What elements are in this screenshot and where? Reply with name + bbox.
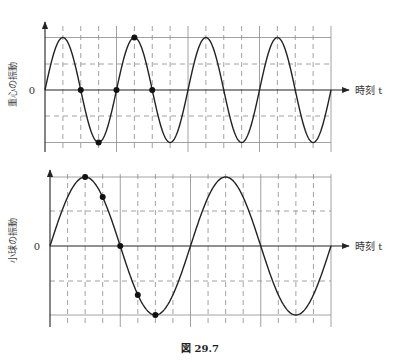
marked-point <box>96 140 102 146</box>
zero-label: 0 <box>34 241 40 252</box>
top-chart-center-of-mass-oscillation: 0 時刻 t 重心の振動 <box>7 22 382 152</box>
marked-point <box>152 312 158 318</box>
marked-point <box>135 292 141 298</box>
marked-point <box>117 243 123 249</box>
x-axis-label-time: 時刻 t <box>355 84 382 96</box>
figure-caption: 図 29.7 <box>181 343 219 354</box>
marked-point <box>149 87 155 93</box>
bottom-chart-ball-oscillation: 0 時刻 t 小球の振動 <box>7 170 382 327</box>
marked-point <box>114 87 120 93</box>
marked-point <box>82 174 88 180</box>
y-axis-label: 小球の振動 <box>7 218 18 263</box>
zero-label: 0 <box>29 85 35 96</box>
marked-point <box>78 87 84 93</box>
x-axis-label-time: 時刻 t <box>355 240 382 252</box>
figure-29-7: 0 時刻 t 重心の振動 0 時刻 t 小球の振動 図 29.7 <box>0 0 400 363</box>
grid <box>50 174 331 327</box>
marked-point <box>131 35 137 41</box>
y-axis-label: 重心の振動 <box>7 62 18 107</box>
marked-point <box>100 194 106 200</box>
